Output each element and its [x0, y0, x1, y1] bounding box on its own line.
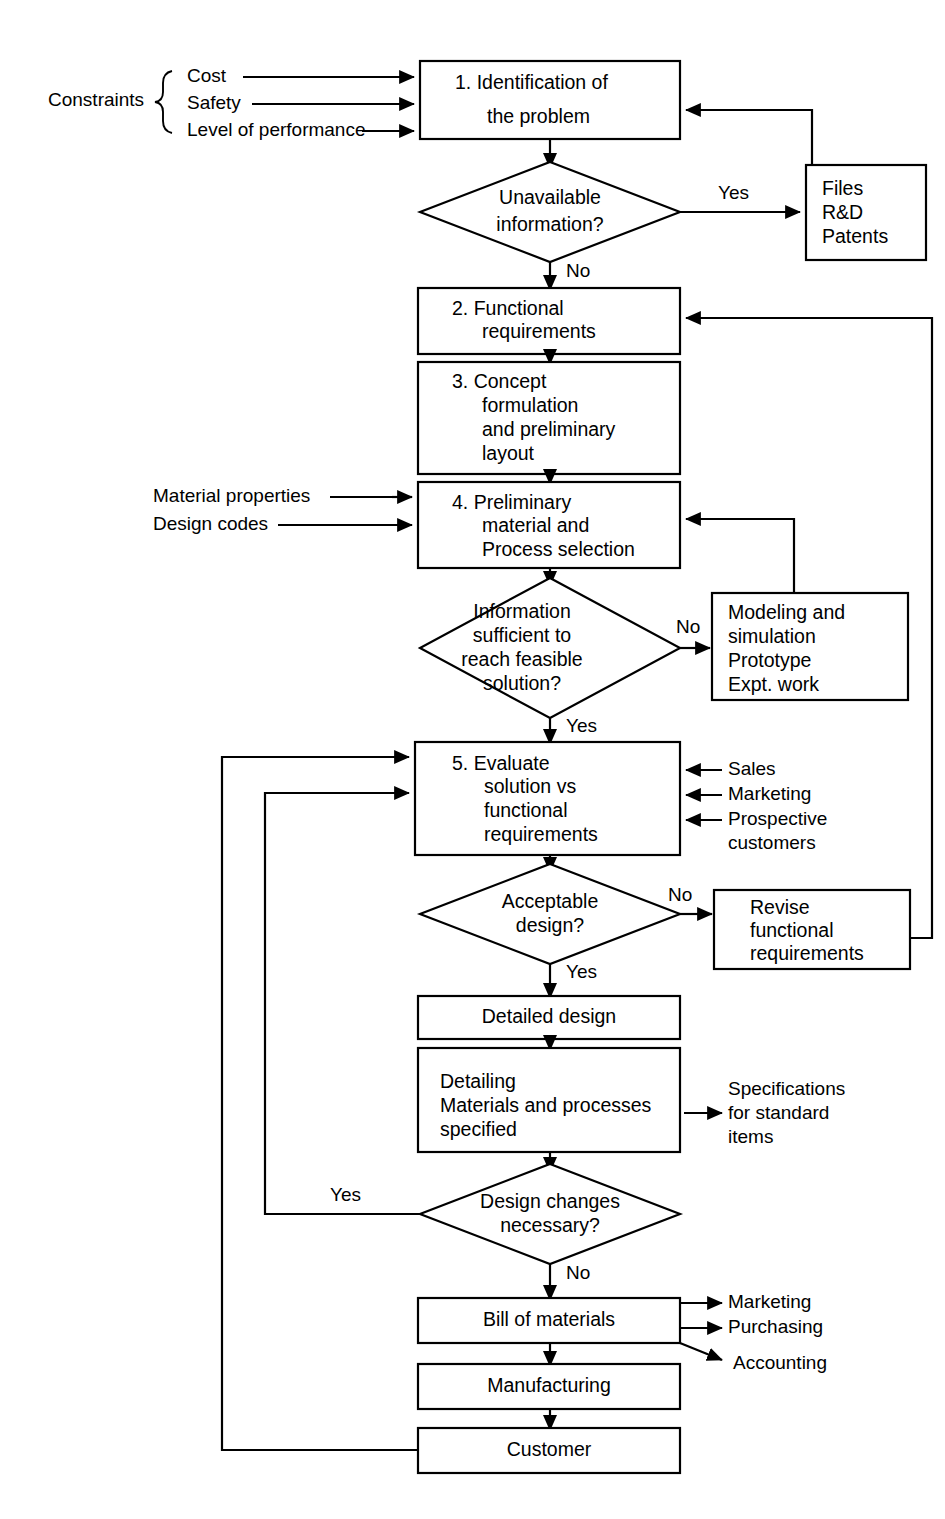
constraints-group-label: Constraints [48, 89, 144, 110]
node-files-line3: Patents [822, 225, 888, 247]
constraints-brace-icon [155, 71, 172, 133]
output-label-purchasing: Purchasing [728, 1316, 823, 1337]
output-label-marketing: Marketing [728, 1291, 811, 1312]
arrow-files-to-step1 [686, 110, 812, 165]
input-label-marketing: Marketing [728, 783, 811, 804]
edge-label-decision3-yes: Yes [566, 961, 597, 982]
constraint-item-cost: Cost [187, 65, 227, 86]
input-label-prospective: Prospective [728, 808, 827, 829]
node-step5-line4: requirements [484, 823, 598, 845]
node-revise-line2: functional [750, 919, 833, 941]
output-label-items: items [728, 1126, 773, 1147]
node-step2-line2: requirements [482, 320, 596, 342]
edge-label-decision4-no: No [566, 1262, 590, 1283]
node-decision3-line2: design? [516, 914, 584, 936]
arrow-modeling-to-step4 [686, 519, 794, 593]
node-step4-line2: material and [482, 514, 589, 536]
edge-label-decision2-no: No [676, 616, 700, 637]
arrow-decision4-yes-to-step5 [265, 793, 420, 1214]
input-label-design-codes: Design codes [153, 513, 268, 534]
node-decision2-line2: sufficient to [473, 624, 571, 646]
node-modeling-line3: Prototype [728, 649, 811, 671]
input-label-sales: Sales [728, 758, 776, 779]
node-modeling-line1: Modeling and [728, 601, 845, 623]
node-decision2-line4: solution? [483, 672, 561, 694]
node-revise-line3: requirements [750, 942, 864, 964]
arrow-customer-to-step5 [222, 757, 418, 1450]
node-step5-line1: 5. Evaluate [452, 752, 550, 774]
node-step5-line2: solution vs [484, 775, 576, 797]
node-step3-line3: and preliminary [482, 418, 616, 440]
node-customer-label: Customer [507, 1438, 592, 1460]
node-step4-line1: 4. Preliminary [452, 491, 571, 513]
node-manufacturing-label: Manufacturing [487, 1374, 611, 1396]
edge-label-decision2-yes: Yes [566, 715, 597, 736]
node-decision1 [420, 162, 680, 262]
node-step3-line2: formulation [482, 394, 578, 416]
node-files-line1: Files [822, 177, 863, 199]
edge-label-decision1-yes: Yes [718, 182, 749, 203]
node-step3-line1: 3. Concept [452, 370, 547, 392]
node-detailing-line1: Detailing [440, 1070, 516, 1092]
node-decision2-line3: reach feasible [461, 648, 582, 670]
node-decision3-line1: Acceptable [502, 890, 598, 912]
edge-label-decision3-no: No [668, 884, 692, 905]
edge-label-decision1-no: No [566, 260, 590, 281]
node-decision1-line1: Unavailable [499, 186, 601, 208]
node-step3-line4: layout [482, 442, 535, 464]
node-decision4-line1: Design changes [480, 1190, 620, 1212]
node-step1-line2: the problem [487, 105, 590, 127]
node-modeling-line2: simulation [728, 625, 816, 647]
arrow-bom-to-accounting [680, 1343, 722, 1360]
node-step5-line3: functional [484, 799, 567, 821]
input-label-customers: customers [728, 832, 816, 853]
node-decision4-line2: necessary? [500, 1214, 600, 1236]
node-bill-of-materials-label: Bill of materials [483, 1308, 615, 1330]
node-files-line2: R&D [822, 201, 863, 223]
node-step4-line3: Process selection [482, 538, 635, 560]
node-detailing-line3: specified [440, 1118, 517, 1140]
input-label-material-properties: Material properties [153, 485, 310, 506]
node-step2-line1: 2. Functional [452, 297, 564, 319]
node-step1-line1: 1. Identification of [455, 71, 608, 93]
edge-label-decision4-yes: Yes [330, 1184, 361, 1205]
node-decision2-line1: Information [473, 600, 571, 622]
node-decision1-line2: information? [496, 213, 603, 235]
node-revise-line1: Revise [750, 896, 810, 918]
node-detailing-line2: Materials and processes [440, 1094, 652, 1116]
flowchart-page: Constraints Cost Safety Level of perform… [0, 0, 945, 1519]
node-modeling-line4: Expt. work [728, 673, 819, 695]
node-detailed-design-label: Detailed design [482, 1005, 616, 1027]
constraint-item-safety: Safety [187, 92, 241, 113]
constraint-item-level-of-performance: Level of performance [187, 119, 366, 140]
flowchart-svg: Constraints Cost Safety Level of perform… [0, 0, 945, 1519]
output-label-specifications: Specifications [728, 1078, 845, 1099]
output-label-for-standard: for standard [728, 1102, 829, 1123]
output-label-accounting: Accounting [733, 1352, 827, 1373]
